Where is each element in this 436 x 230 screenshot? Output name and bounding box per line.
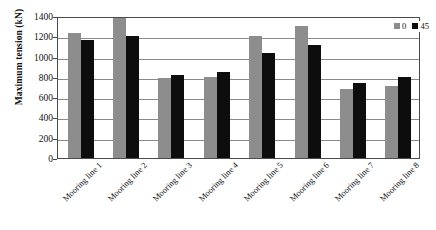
bar-0-4 <box>204 77 217 158</box>
bar-group <box>58 18 103 158</box>
legend-entry-45: 45 <box>412 22 429 31</box>
bar-0-2 <box>113 17 126 158</box>
bar-group <box>240 18 285 158</box>
bar-45-5 <box>262 53 275 158</box>
bar-0-5 <box>249 36 262 158</box>
x-axis-tick-label: Mooring line 8 <box>378 160 422 204</box>
bar-0-8 <box>385 86 398 158</box>
x-axis-tick-label: Mooring line 7 <box>332 160 376 204</box>
bar-45-8 <box>398 77 411 158</box>
bar-0-1 <box>68 33 81 158</box>
x-axis-tick-label: Mooring line 3 <box>151 160 195 204</box>
x-axis-tick-label: Mooring line 4 <box>196 160 240 204</box>
bar-45-1 <box>81 40 94 158</box>
x-axis-tick-label: Mooring line 6 <box>287 160 331 204</box>
legend-label: 45 <box>420 22 429 31</box>
plot-area <box>57 17 420 159</box>
legend-swatch-icon <box>412 23 418 29</box>
bars-layer <box>58 18 419 158</box>
bar-45-3 <box>171 75 184 158</box>
legend-swatch-icon <box>394 23 400 29</box>
bar-45-7 <box>353 83 366 158</box>
x-axis-tick-label: Mooring line 2 <box>106 160 150 204</box>
x-axis-tick-label: Mooring line 5 <box>242 160 286 204</box>
bar-0-7 <box>340 89 353 158</box>
bar-group <box>330 18 375 158</box>
bar-group <box>376 18 420 158</box>
x-axis-tick-labels: Mooring line 1Mooring line 2Mooring line… <box>57 160 420 230</box>
bar-45-4 <box>217 72 230 158</box>
bar-45-6 <box>308 45 321 158</box>
bar-chart-figure: Maximum tension (kN) 0200400600800100012… <box>0 0 436 230</box>
bar-0-3 <box>158 78 171 158</box>
x-axis-tick-label: Mooring line 1 <box>60 160 104 204</box>
bar-0-6 <box>295 26 308 158</box>
bar-group <box>194 18 239 158</box>
legend-entry-0: 0 <box>394 22 406 31</box>
bar-group <box>285 18 330 158</box>
chart-legend: 045 <box>392 21 431 32</box>
bar-group <box>149 18 194 158</box>
bar-45-2 <box>126 36 139 158</box>
bar-group <box>103 18 148 158</box>
y-axis-tick-marks <box>0 17 57 159</box>
legend-label: 0 <box>402 22 406 31</box>
